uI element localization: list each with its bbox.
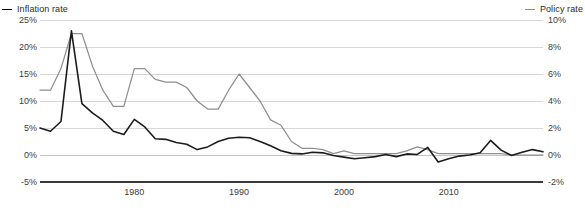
y-axis-right-tick-label: 10% xyxy=(548,16,582,25)
y-axis-left-tick-label: 5% xyxy=(3,124,37,133)
y-axis-right-tick-label: 4% xyxy=(548,97,582,106)
y-axis-right-tick-label: 6% xyxy=(548,70,582,79)
y-axis-left-tick-label: 25% xyxy=(3,16,37,25)
y-axis-left-tick-label: 10% xyxy=(3,97,37,106)
chart-svg xyxy=(40,20,543,182)
line-dash-icon xyxy=(525,9,535,10)
y-axis-left-tick-label: 0% xyxy=(3,151,37,160)
y-axis-right-tick-label: 2% xyxy=(548,124,582,133)
legend-policy-rate: Policy rate xyxy=(525,4,583,14)
x-axis-tick-label: 1980 xyxy=(114,188,154,197)
gridlines xyxy=(40,20,543,182)
series-line-policy-rate xyxy=(40,34,543,156)
y-axis-left-tick-label: 15% xyxy=(3,70,37,79)
y-axis-left-tick-label: -5% xyxy=(3,178,37,187)
y-axis-right-tick-label: -2% xyxy=(548,178,582,187)
dual-axis-line-chart: Inflation rate Policy rate -5%0%5%10%15%… xyxy=(0,0,585,208)
plot-area xyxy=(40,20,543,182)
y-axis-right-tick-label: 0% xyxy=(548,151,582,160)
line-dash-icon xyxy=(2,9,12,10)
y-axis-right-tick-label: 8% xyxy=(548,43,582,52)
legend-inflation-rate: Inflation rate xyxy=(2,4,68,14)
legend-label-inflation-rate: Inflation rate xyxy=(17,4,68,14)
legend-label-policy-rate: Policy rate xyxy=(540,4,583,14)
x-axis-tick-label: 2000 xyxy=(324,188,364,197)
series-line-inflation-rate xyxy=(40,31,543,162)
y-axis-left-tick-label: 20% xyxy=(3,43,37,52)
x-axis-tick-label: 2010 xyxy=(429,188,469,197)
x-axis-tick-label: 1990 xyxy=(219,188,259,197)
